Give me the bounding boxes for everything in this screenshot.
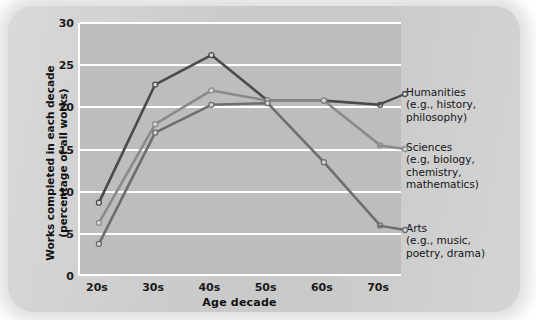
series-line-sciences — [99, 90, 380, 222]
data-point-marker — [209, 102, 214, 107]
data-point-marker — [265, 101, 270, 106]
x-axis-tick-label: 70s — [367, 281, 389, 294]
x-axis-tick-label: 50s — [255, 281, 277, 294]
data-point-marker — [153, 122, 158, 127]
data-point-marker — [96, 220, 101, 225]
data-point-marker — [321, 98, 326, 103]
y-axis-tick-label: 30 — [48, 17, 74, 30]
data-point-marker — [153, 82, 158, 87]
series-line-humanities — [99, 55, 380, 203]
x-axis-title: Age decade — [78, 296, 401, 309]
data-point-marker — [321, 160, 326, 165]
data-point-marker — [209, 88, 214, 93]
y-axis-title-line2: (percentage of all works) — [57, 88, 69, 237]
x-axis-tick-label: 40s — [198, 281, 220, 294]
chart-figure: 051015202530 Works completed in each dec… — [0, 0, 536, 320]
data-point-marker — [209, 53, 214, 58]
series-lines-layer — [80, 23, 403, 276]
plot-area — [78, 23, 401, 276]
x-axis-tick-labels: 20s30s40s50s60s70s — [78, 281, 401, 297]
legend-leader-lines — [395, 0, 515, 320]
x-axis-tick-label: 20s — [86, 281, 108, 294]
y-axis-title-line1: Works completed in each decade — [44, 65, 56, 260]
x-axis-tick-label: 30s — [142, 281, 164, 294]
data-point-marker — [153, 130, 158, 135]
data-point-marker — [96, 200, 101, 205]
data-point-marker — [96, 241, 101, 246]
y-axis-title: Works completed in each decade (percenta… — [44, 48, 70, 278]
series-line-arts — [99, 103, 380, 244]
x-axis-tick-label: 60s — [311, 281, 333, 294]
